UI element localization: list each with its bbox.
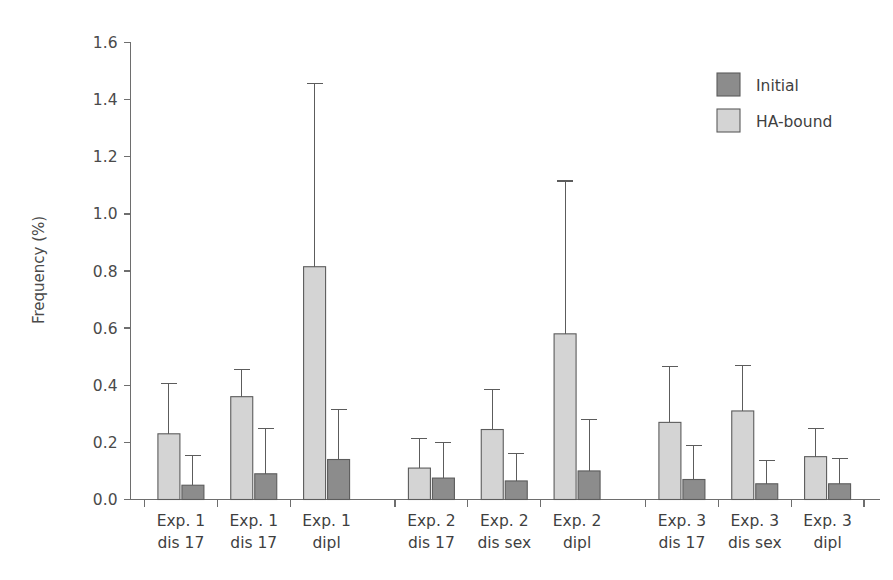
bar-ha-bound bbox=[554, 334, 576, 500]
legend-label-ha-bound: HA-bound bbox=[756, 113, 832, 131]
x-category-label: Exp. 1 bbox=[302, 512, 351, 530]
y-tick-label: 0.2 bbox=[93, 434, 118, 452]
x-category-label: dis sex bbox=[477, 534, 531, 552]
chart-canvas: 0.00.20.40.60.81.01.21.41.6 Exp. 1dis 17… bbox=[0, 0, 893, 580]
y-tick-label: 1.6 bbox=[93, 34, 118, 52]
bar-ha-bound bbox=[231, 397, 253, 500]
x-category-label: dipl bbox=[563, 534, 591, 552]
y-tick-label: 0.8 bbox=[93, 263, 118, 281]
x-category-label: Exp. 3 bbox=[730, 512, 779, 530]
bar-initial bbox=[255, 474, 277, 500]
x-category-label: dis 17 bbox=[157, 534, 204, 552]
y-tick-label: 0.4 bbox=[93, 377, 118, 395]
y-tick-label: 1.2 bbox=[93, 148, 118, 166]
bar-initial bbox=[756, 484, 778, 500]
bar-initial bbox=[328, 460, 350, 500]
bar-initial bbox=[182, 485, 204, 499]
bar-ha-bound bbox=[481, 430, 503, 500]
bar-initial bbox=[505, 481, 527, 500]
bar-initial bbox=[432, 478, 454, 499]
x-category-label: dipl bbox=[813, 534, 841, 552]
bar-ha-bound bbox=[732, 411, 754, 500]
y-tick-label: 0.0 bbox=[93, 491, 118, 509]
bar-ha-bound bbox=[408, 468, 430, 499]
bar-initial bbox=[683, 480, 705, 500]
x-category-label: Exp. 3 bbox=[658, 512, 707, 530]
x-category-label: dipl bbox=[312, 534, 340, 552]
bar-initial bbox=[829, 484, 851, 500]
legend-swatch-ha-bound bbox=[717, 109, 740, 132]
x-category-label: Exp. 2 bbox=[407, 512, 456, 530]
bar-ha-bound bbox=[659, 422, 681, 499]
y-tick-label: 0.6 bbox=[93, 320, 118, 338]
x-category-label: dis sex bbox=[728, 534, 782, 552]
bar-chart-figure: 0.00.20.40.60.81.01.21.41.6 Exp. 1dis 17… bbox=[0, 0, 893, 580]
y-tick-label: 1.0 bbox=[93, 205, 118, 223]
y-tick-label: 1.4 bbox=[93, 91, 118, 109]
x-category-label: Exp. 1 bbox=[157, 512, 206, 530]
legend-label-initial: Initial bbox=[756, 77, 799, 95]
x-category-label: dis 17 bbox=[230, 534, 277, 552]
bar-initial bbox=[578, 471, 600, 500]
y-axis-title: Frequency (%) bbox=[30, 216, 48, 324]
x-category-label: Exp. 1 bbox=[229, 512, 278, 530]
x-category-label: dis 17 bbox=[658, 534, 705, 552]
bar-ha-bound bbox=[805, 457, 827, 500]
bar-ha-bound bbox=[304, 267, 326, 500]
legend-swatch-initial bbox=[717, 73, 740, 96]
bar-ha-bound bbox=[158, 434, 180, 500]
x-category-label: Exp. 3 bbox=[803, 512, 852, 530]
x-category-label: Exp. 2 bbox=[480, 512, 529, 530]
x-category-label: dis 17 bbox=[408, 534, 455, 552]
x-category-label: Exp. 2 bbox=[553, 512, 602, 530]
